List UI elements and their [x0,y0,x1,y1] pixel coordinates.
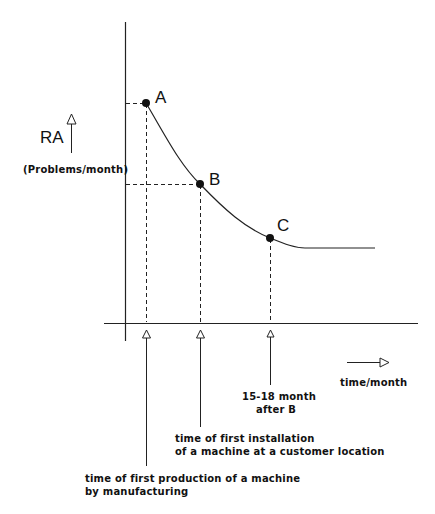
x-axis-label: time/month [340,376,407,389]
point-c-marker [266,234,274,242]
point-a-marker [142,99,150,107]
ra-arrow-icon [67,114,76,153]
point-b-label: B [209,170,220,190]
y-axis-unit: (Problems/month) [23,163,128,176]
time-arrow-icon [347,358,389,367]
arrow-up-icon-c [267,330,274,385]
a-note-line1: time of first production of a machine [85,472,300,485]
arrow-up-icon-a [143,330,151,466]
guide-lines [126,104,271,323]
point-b-marker [196,180,204,188]
ra-curve [146,103,375,248]
c-note-line2: after B [256,403,296,416]
y-axis-label: RA [40,128,64,148]
b-note-line1: time of first installation [175,432,315,445]
point-c-label: C [277,216,289,236]
b-note-line2: of a machine at a customer location [175,445,385,458]
a-note-line2: by manufacturing [85,485,188,498]
arrow-up-icon-b [197,330,205,427]
point-a-label: A [155,88,166,108]
c-note-line1: 15-18 month [242,390,316,403]
